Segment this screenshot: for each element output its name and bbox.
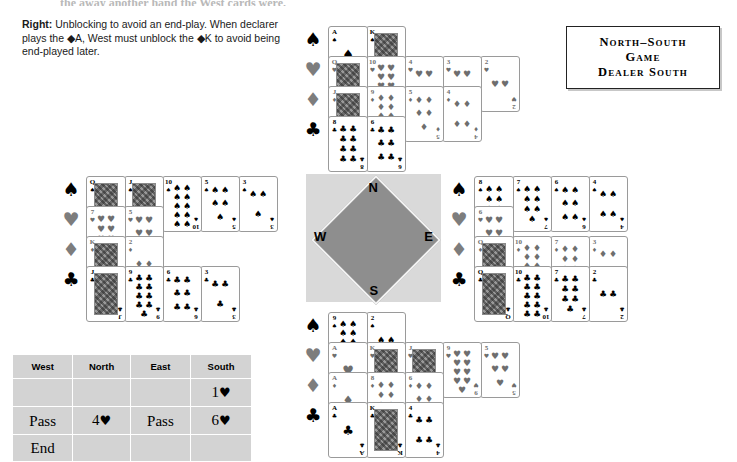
playing-card: 3♣3♣♣♣♣: [200, 266, 240, 322]
bidding-header-south: South: [191, 355, 252, 379]
card-index: 5♠: [230, 216, 238, 230]
playing-card: 2♥2♥♥♥: [480, 56, 520, 112]
card-index: 6♣: [192, 306, 200, 320]
playing-card: 6♣6♣♣♣♣♣♣♣: [162, 266, 202, 322]
heart-suit-icon: ♥: [302, 58, 324, 80]
card-pips: ♣♣♣♣♣♣♣♣♣: [134, 274, 154, 314]
compass-label-north: N: [369, 180, 378, 195]
bidding-header-west: West: [13, 355, 73, 379]
card-index: 3♣: [230, 306, 238, 320]
card-pips: ♣♣♣♣: [414, 410, 434, 450]
playing-card: 10♠10♠♠♠♠♠♠♠♠♠♠♠: [162, 176, 202, 232]
club-suit-icon: ♣: [60, 268, 82, 290]
playing-card: J♣J♣: [86, 266, 126, 322]
playing-card: 4♠4♠♠♠♠♠: [588, 176, 628, 232]
caption-lead: Right:: [22, 18, 52, 30]
vulnerability-line-1: North–South: [599, 35, 686, 50]
bidding-table: West North East South 1♥Pass4♥Pass6♥End: [12, 354, 252, 462]
club-suit-icon: ♣: [448, 268, 470, 290]
card-pips: ♣: [338, 410, 358, 450]
card-pips: ♣♣♣♣♣♣♣♣♣♣: [522, 274, 542, 314]
bid-cell-west: Pass: [13, 407, 73, 435]
playing-card: 2♣2♣♣♣: [588, 266, 628, 322]
court-card-art: [94, 273, 118, 315]
card-index: 5♥: [510, 382, 518, 396]
card-index: 6♣: [396, 156, 404, 170]
court-card-art: [374, 409, 398, 451]
card-pips: ♠♠♠: [248, 184, 268, 224]
card-index: 4♣: [434, 442, 442, 456]
card-pips: ♥♥♥♥♥: [490, 350, 510, 390]
bid-cell-west: [13, 379, 73, 407]
card-index: A♣: [358, 442, 366, 456]
vulnerability-line-3: Dealer South: [598, 65, 688, 80]
heart-suit-icon: ♥: [60, 208, 82, 230]
bid-cell-south: 1♥: [191, 379, 252, 407]
card-index: 10♠: [192, 216, 200, 230]
bidding-row: End: [13, 435, 252, 462]
card-pips: ♣♣♣♣♣♣♣: [560, 274, 580, 314]
playing-card: A♣A♣♣: [328, 402, 368, 458]
diamond-suit-icon: ♦: [60, 238, 82, 260]
playing-card: 6♣6♣♣♣♣♣♣♣: [366, 116, 406, 172]
card-index: 7♠: [542, 216, 550, 230]
card-pips: ♥♥♥♥♥♥♥♥♥: [452, 350, 472, 390]
diamond-suit-icon: ♦: [302, 374, 324, 396]
bid-cell-east: [130, 379, 190, 407]
compass-label-east: E: [424, 229, 433, 244]
playing-card: 5♠5♠♠♠♠♠♠: [200, 176, 240, 232]
playing-card: 3♠3♠♠♠♠: [238, 176, 278, 232]
cut-off-headline: the away another hand the West cards wer…: [60, 0, 480, 6]
playing-card: 8♣8♣♣♣♣♣♣♣♣♣: [328, 116, 368, 172]
bid-cell-north: [73, 379, 130, 407]
heart-suit-icon: ♥: [448, 208, 470, 230]
card-index: 3♠: [268, 216, 276, 230]
card-index: 4♠: [618, 216, 626, 230]
bidding-header-row: West North East South: [13, 355, 252, 379]
card-pips: ♣♣♣♣♣♣: [172, 274, 192, 314]
card-pips: ♦♦♦♦♦: [414, 94, 434, 134]
bidding-row: Pass4♥Pass6♥: [13, 407, 252, 435]
compass-label-west: W: [314, 229, 326, 244]
caption-body: Unblocking to avoid an end-play. When de…: [22, 18, 280, 57]
playing-card: 7♠7♠♠♠♠♠♠♠♠: [512, 176, 552, 232]
heart-suit-icon: ♥: [302, 344, 324, 366]
bidding-header-north: North: [73, 355, 130, 379]
playing-card: 9♣9♣♣♣♣♣♣♣♣♣♣: [124, 266, 164, 322]
bid-cell-south: [191, 435, 252, 462]
bid-cell-south: 6♥: [191, 407, 252, 435]
playing-card: 7♣7♣♣♣♣♣♣♣♣: [550, 266, 590, 322]
card-index: 6♠: [580, 216, 588, 230]
bid-cell-north: 4♥: [73, 407, 130, 435]
card-index: 5♦: [434, 126, 442, 140]
card-pips: ♣♣♣♣♣♣♣♣: [338, 124, 358, 164]
vulnerability-box: North–South Game Dealer South: [566, 26, 720, 89]
playing-card: 6♠6♠♠♠♠♠♠♠: [550, 176, 590, 232]
card-pips: ♠♠♠♠♠: [210, 184, 230, 224]
playing-card: 5♥5♥♥♥♥♥♥: [480, 342, 520, 398]
bid-cell-west: End: [13, 435, 73, 462]
playing-card: 4♦4♦♦♦♦♦: [442, 86, 482, 142]
card-pips: ♦♦♦♦: [452, 94, 472, 134]
compass-rose: N S W E: [306, 174, 441, 302]
compass-label-south: S: [370, 283, 379, 298]
card-pips: ♣♣: [598, 274, 618, 314]
bid-cell-east: [130, 435, 190, 462]
card-pips: ♥♥: [490, 64, 510, 104]
card-index: 4♦: [472, 126, 480, 140]
card-pips: ♠♠♠♠: [598, 184, 618, 224]
card-pips: ♠♠♠♠♠♠♠: [522, 184, 542, 224]
card-pips: ♠♠♠♠♠♠♠♠♠♠: [172, 184, 192, 224]
club-suit-icon: ♣: [302, 118, 324, 140]
spade-suit-icon: ♠: [448, 178, 470, 200]
playing-card: Q♣Q♣: [474, 266, 514, 322]
playing-card: K♣K♣: [366, 402, 406, 458]
card-pips: ♣♣♣♣♣♣: [376, 124, 396, 164]
card-index: 10♣: [542, 306, 550, 320]
playing-card: 4♣4♣♣♣♣♣: [404, 402, 444, 458]
bidding-header-east: East: [130, 355, 190, 379]
bid-cell-east: Pass: [130, 407, 190, 435]
figure-caption: Right: Unblocking to avoid an end-play. …: [22, 18, 297, 59]
card-index: 8♣: [358, 156, 366, 170]
card-index: 9♥: [472, 382, 480, 396]
